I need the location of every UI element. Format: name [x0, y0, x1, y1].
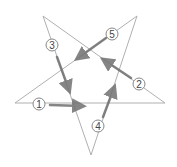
stroke-number: 1 — [36, 99, 42, 110]
stroke-number: 3 — [49, 40, 55, 51]
stroke-number-badge: 5 — [106, 28, 118, 40]
star-line — [15, 16, 137, 103]
stroke-number-badge: 2 — [133, 78, 145, 90]
diagram-canvas: 12345 — [0, 0, 177, 167]
stroke-number: 4 — [95, 121, 101, 132]
stroke-arrow-icon — [50, 105, 82, 106]
pentagram-diagram: 12345 — [0, 0, 177, 167]
stroke-number-badge: 3 — [46, 39, 58, 51]
stroke-number-badge: 4 — [92, 120, 104, 132]
stroke-number-badge: 1 — [33, 98, 45, 110]
stroke-arrows — [50, 38, 131, 117]
stroke-arrow-icon — [78, 38, 106, 58]
stroke-number: 5 — [109, 29, 115, 40]
stroke-arrow-icon — [57, 57, 69, 90]
stroke-number: 2 — [136, 79, 142, 90]
